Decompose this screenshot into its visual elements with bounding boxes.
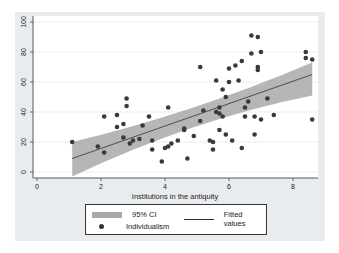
ci-swatch: [92, 212, 122, 218]
data-point: [246, 99, 251, 104]
x-tick-label: 0: [35, 183, 39, 190]
x-tick-label: 4: [163, 183, 167, 190]
data-point: [131, 138, 136, 143]
data-point: [102, 150, 107, 155]
x-tick-label: 6: [227, 183, 231, 190]
legend-label-fitted: Fitted values: [224, 210, 266, 228]
data-point: [147, 114, 152, 119]
data-point: [233, 63, 238, 68]
data-point: [220, 87, 225, 92]
x-tick-label: 8: [291, 183, 295, 190]
data-point: [166, 105, 171, 110]
y-tick-label: 100: [20, 16, 27, 28]
data-point: [240, 59, 245, 64]
x-axis-label: Institutions in the antiquity: [132, 192, 219, 201]
data-point: [160, 159, 165, 164]
y-ticks: 020406080100: [20, 16, 33, 174]
data-point: [115, 125, 120, 130]
data-point: [150, 138, 155, 143]
data-point: [124, 104, 129, 109]
data-point: [220, 114, 225, 119]
data-point: [102, 114, 107, 119]
data-point: [259, 117, 264, 122]
data-point: [236, 78, 241, 83]
data-point: [169, 141, 174, 146]
point-marker-icon: [99, 224, 104, 229]
data-point: [96, 144, 101, 149]
data-point: [224, 95, 229, 100]
y-tick-label: 0: [20, 170, 27, 174]
legend-item-fitted: Fitted values: [184, 210, 266, 228]
legend-item-ci: 95% CI: [92, 210, 157, 219]
y-tick-label: 80: [20, 48, 27, 56]
data-point: [121, 122, 126, 127]
legend-item-points: Individualism: [86, 222, 169, 231]
data-point: [310, 117, 315, 122]
y-tick-label: 40: [20, 108, 27, 116]
x-tick-label: 2: [99, 183, 103, 190]
legend-label-points: Individualism: [126, 222, 169, 231]
y-tick-label: 20: [20, 138, 27, 146]
data-point: [252, 114, 257, 119]
data-point: [249, 33, 254, 38]
data-point: [243, 105, 248, 110]
data-point: [224, 132, 229, 137]
data-point: [182, 126, 187, 131]
data-point: [304, 50, 309, 55]
data-point: [137, 137, 142, 142]
data-point: [121, 135, 126, 140]
data-point: [185, 156, 190, 161]
data-point: [252, 132, 257, 137]
data-point: [230, 138, 235, 143]
data-point: [176, 138, 181, 143]
y-tick-label: 60: [20, 78, 27, 86]
data-point: [240, 146, 245, 151]
line-swatch: [184, 219, 214, 220]
data-point: [211, 140, 216, 145]
data-point: [214, 78, 219, 83]
data-point: [304, 56, 309, 61]
data-point: [70, 140, 75, 145]
data-point: [310, 57, 315, 62]
data-point: [243, 114, 248, 119]
data-point: [272, 113, 277, 118]
data-point: [255, 35, 260, 40]
data-point: [227, 80, 232, 85]
data-point: [265, 96, 270, 101]
data-point: [249, 51, 254, 56]
legend-label-ci: 95% CI: [132, 210, 157, 219]
data-point: [211, 147, 216, 152]
data-point: [140, 123, 145, 128]
x-ticks: 02468: [35, 178, 295, 190]
data-point: [227, 66, 232, 71]
data-point: [217, 128, 222, 133]
data-point: [259, 50, 264, 55]
data-point: [150, 147, 155, 152]
data-point: [198, 119, 203, 124]
data-point: [255, 68, 260, 73]
legend: 95% CI Fitted values Individualism: [85, 204, 267, 235]
data-point: [192, 134, 197, 139]
data-point: [198, 65, 203, 70]
data-point: [124, 96, 129, 101]
data-point: [115, 113, 120, 118]
